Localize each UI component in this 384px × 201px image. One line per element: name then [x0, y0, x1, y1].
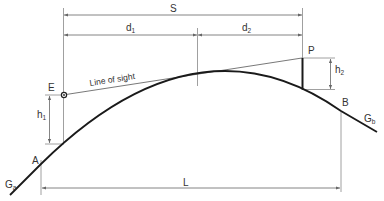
label-d1: d1: [126, 22, 136, 34]
label-h1: h1: [37, 109, 47, 121]
label-b: B: [342, 97, 349, 108]
label-gb: Gb: [364, 113, 376, 125]
label-d2: d2: [242, 22, 252, 34]
label-line-of-sight: Line of sight: [89, 71, 136, 88]
eye-point-dot: [63, 94, 65, 96]
label-h2: h2: [335, 64, 345, 76]
dimension-lines: [42, 15, 340, 188]
label-e: E: [48, 82, 55, 93]
label-l: L: [183, 177, 189, 188]
label-ga: Ga: [5, 179, 17, 191]
label-a: A: [32, 155, 39, 166]
crest-vertical-curve-diagram: S d1 d2 E P h1 h2 Line of sight A B Ga G…: [0, 0, 384, 201]
label-p: P: [308, 45, 315, 56]
label-s: S: [170, 3, 177, 14]
extension-lines: [41, 8, 341, 195]
